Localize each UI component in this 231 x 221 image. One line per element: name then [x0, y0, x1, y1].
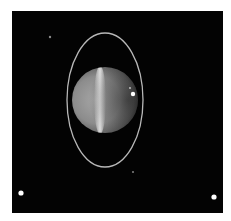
moon-bottom-left — [18, 190, 23, 195]
storm-spot — [131, 92, 135, 96]
uranus-scene — [0, 0, 231, 221]
moon-below-ring — [132, 171, 134, 173]
planet — [72, 66, 138, 134]
moon-top-left — [49, 36, 51, 38]
moon-bottom-right — [211, 194, 216, 199]
